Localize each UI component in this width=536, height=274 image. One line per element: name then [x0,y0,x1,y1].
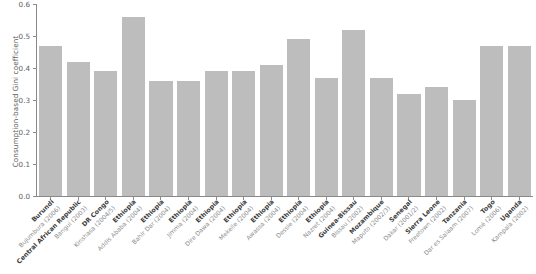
y-tick-label: 0.0 [19,192,30,201]
bar-slot [478,4,506,196]
bar-slot [505,4,533,196]
bar-slot [230,4,258,196]
bar[interactable] [39,46,62,196]
x-axis-line [36,196,533,197]
y-tick-label: 0.2 [19,128,30,137]
bar[interactable] [480,46,503,196]
bar[interactable] [149,81,172,196]
bar-slot [37,4,65,196]
plot-area: 0.00.10.20.30.40.50.6 [36,4,533,196]
y-tick-label: 0.4 [19,64,30,73]
bar[interactable] [205,71,228,196]
bar[interactable] [177,81,200,196]
bar[interactable] [397,94,420,196]
bar-slot [257,4,285,196]
bar-slot [147,4,175,196]
bar-slot [175,4,203,196]
bar-slot [202,4,230,196]
bar[interactable] [315,78,338,196]
y-tick-label: 0.5 [19,32,30,41]
x-axis-labels: BurundiBujumbura (2006)Central African R… [36,198,533,274]
bar-slot [340,4,368,196]
y-tick-label: 0.6 [19,0,30,9]
bar[interactable] [67,62,90,196]
bar[interactable] [287,39,310,196]
bar-chart: Consumption-based Gini coefficient 0.00.… [0,0,536,274]
bar[interactable] [94,71,117,196]
bar-slot [423,4,451,196]
bar-slot [368,4,396,196]
x-label-slot: UgandaKampala (2002) [504,198,532,274]
bar-slot [395,4,423,196]
bar[interactable] [122,17,145,196]
bar-slot [285,4,313,196]
x-label-slot: TanzaniaDar es Salaam (2007) [449,198,477,274]
bar[interactable] [508,46,531,196]
bar[interactable] [232,71,255,196]
bar-series [37,4,533,196]
bar-slot [313,4,341,196]
bar-slot [450,4,478,196]
bar[interactable] [370,78,393,196]
y-tick-mark [33,196,37,197]
bar-slot [120,4,148,196]
bar-slot [65,4,93,196]
bar[interactable] [260,65,283,196]
bar[interactable] [453,100,476,196]
bar[interactable] [425,87,448,196]
bar-slot [92,4,120,196]
y-tick-label: 0.1 [19,160,30,169]
y-tick-label: 0.3 [19,96,30,105]
bar[interactable] [342,30,365,196]
